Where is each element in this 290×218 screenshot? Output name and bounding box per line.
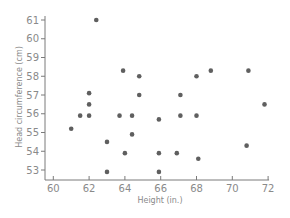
x-tick-label: 66: [154, 183, 167, 194]
data-point: [130, 132, 135, 137]
data-point: [105, 140, 110, 145]
x-tick-label: 68: [190, 183, 203, 194]
data-point: [178, 113, 183, 118]
data-points: [69, 18, 267, 174]
data-point: [196, 156, 201, 161]
data-point: [121, 68, 126, 73]
x-axis-title: Height (in.): [137, 196, 182, 205]
y-tick-label: 53: [26, 165, 39, 176]
data-point: [178, 93, 183, 98]
data-point: [105, 170, 110, 175]
data-point: [123, 151, 128, 156]
data-point: [157, 170, 162, 175]
data-point: [87, 113, 92, 118]
data-point: [262, 102, 267, 107]
y-tick-label: 58: [26, 71, 39, 82]
data-point: [157, 151, 162, 156]
y-tick-label: 59: [26, 52, 39, 63]
data-point: [209, 68, 214, 73]
y-axis: 535455565758596061: [26, 15, 45, 181]
x-tick-label: 70: [226, 183, 239, 194]
y-axis-title: Head circumference (cm): [15, 46, 24, 148]
data-point: [130, 113, 135, 118]
data-point: [87, 91, 92, 96]
data-point: [157, 117, 162, 122]
data-point: [94, 18, 99, 23]
x-axis: 60626466687072: [45, 176, 274, 194]
data-point: [194, 74, 199, 79]
x-tick-label: 64: [119, 183, 132, 194]
x-tick-label: 60: [47, 183, 60, 194]
data-point: [87, 102, 92, 107]
data-point: [194, 113, 199, 118]
y-tick-label: 61: [26, 15, 39, 26]
y-tick-label: 57: [26, 90, 39, 101]
y-tick-label: 55: [26, 127, 39, 138]
data-point: [244, 143, 249, 148]
data-point: [175, 151, 180, 156]
scatter-chart: 535455565758596061 60626466687072 Height…: [0, 0, 290, 218]
data-point: [137, 74, 142, 79]
data-point: [69, 126, 74, 131]
x-tick-label: 62: [83, 183, 96, 194]
data-point: [246, 68, 251, 73]
y-tick-label: 60: [26, 33, 39, 44]
data-point: [117, 113, 122, 118]
x-tick-label: 72: [262, 183, 275, 194]
y-tick-label: 56: [26, 108, 39, 119]
data-point: [137, 93, 142, 98]
y-tick-label: 54: [26, 146, 39, 157]
data-point: [78, 113, 83, 118]
